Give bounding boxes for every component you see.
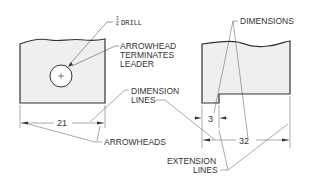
dimensioning-diagram: 3 4 DRILL ARROWHEAD TERMINATES LEADER 21… [0,0,310,187]
drill-frac-den: 4 [116,22,119,27]
dim-21: 21 [57,118,67,128]
dimensions-label: DIMENSIONS [240,16,294,26]
drill-label: DRILL [121,19,142,27]
arrowheads-label: ARROWHEADS [104,137,166,147]
dimension-lines-label-2: LINES [131,95,156,105]
dim-3: 3 [208,114,213,124]
dim-32: 32 [239,136,249,146]
right-part [202,41,290,103]
drill-frac-num: 3 [116,16,119,21]
extension-lines-label-2: LINES [193,165,218,175]
arrowhead-label-3: LEADER [120,59,154,69]
